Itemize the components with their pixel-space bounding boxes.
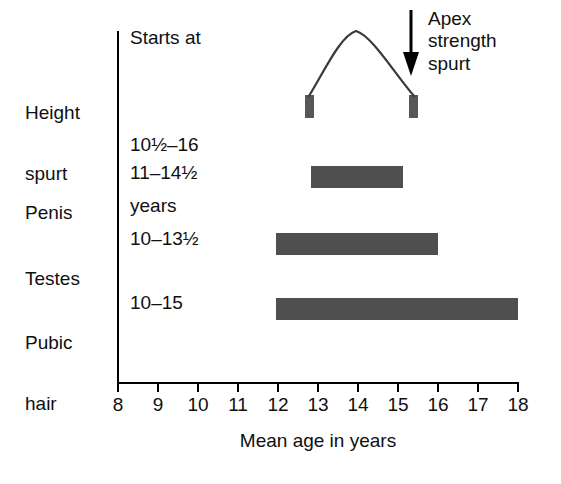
row-label-pubic-hair-line2: hair <box>25 394 73 414</box>
x-tick-label: 13 <box>298 394 338 416</box>
x-tick-mark <box>397 384 399 392</box>
x-tick-mark <box>157 384 159 392</box>
x-tick-label: 10 <box>178 394 218 416</box>
starts-at-value-penis: 11–14½ <box>130 163 197 183</box>
x-tick-mark <box>477 384 479 392</box>
row-label-penis-line1: Penis <box>25 203 73 223</box>
apex-annotation-line1: Apex <box>428 8 497 30</box>
row-label-testes-line1: Testes <box>25 269 80 289</box>
x-tick-mark <box>437 384 439 392</box>
starts-at-column-header: Starts at <box>130 28 201 48</box>
bar-testes <box>276 233 438 255</box>
x-axis-title: Mean age in years <box>117 430 519 452</box>
x-tick-mark <box>117 384 119 392</box>
x-tick-label: 9 <box>138 394 178 416</box>
row-label-pubic-hair: Pubic hair <box>25 293 73 454</box>
row-label-height-spurt-line1: Height <box>25 103 80 123</box>
y-axis-line <box>117 31 119 384</box>
starts-at-value-height-spurt-units: years <box>130 196 199 216</box>
apex-annotation-line3: spurt <box>428 53 497 75</box>
row-label-pubic-hair-line1: Pubic <box>25 333 73 353</box>
apex-arrow-head <box>403 52 419 76</box>
x-tick-label: 17 <box>458 394 498 416</box>
x-tick-mark <box>277 384 279 392</box>
x-tick-label: 12 <box>258 394 298 416</box>
puberty-timeline-chart: Height spurt Penis Testes Pubic hair Sta… <box>0 0 561 484</box>
x-tick-label: 18 <box>498 394 538 416</box>
x-tick-label: 16 <box>418 394 458 416</box>
starts-at-value-pubic-hair: 10–15 <box>130 293 183 313</box>
height-spurt-velocity-curve <box>309 31 414 96</box>
x-tick-label: 15 <box>378 394 418 416</box>
x-tick-mark <box>357 384 359 392</box>
starts-at-value-testes: 10–13½ <box>130 229 199 249</box>
x-tick-label: 14 <box>338 394 378 416</box>
apex-strength-spurt-annotation: Apex strength spurt <box>428 8 497 75</box>
x-tick-mark <box>517 384 519 392</box>
bar-penis <box>311 166 403 188</box>
x-tick-mark <box>317 384 319 392</box>
x-tick-label: 11 <box>218 394 258 416</box>
height-spurt-start-marker <box>305 95 314 118</box>
starts-at-value-height-spurt-range: 10½–16 <box>130 135 199 155</box>
height-spurt-end-marker <box>409 95 418 118</box>
apex-annotation-line2: strength <box>428 30 497 52</box>
x-tick-mark <box>197 384 199 392</box>
x-tick-label: 8 <box>98 394 138 416</box>
x-tick-mark <box>237 384 239 392</box>
bar-pubic-hair <box>276 298 518 320</box>
